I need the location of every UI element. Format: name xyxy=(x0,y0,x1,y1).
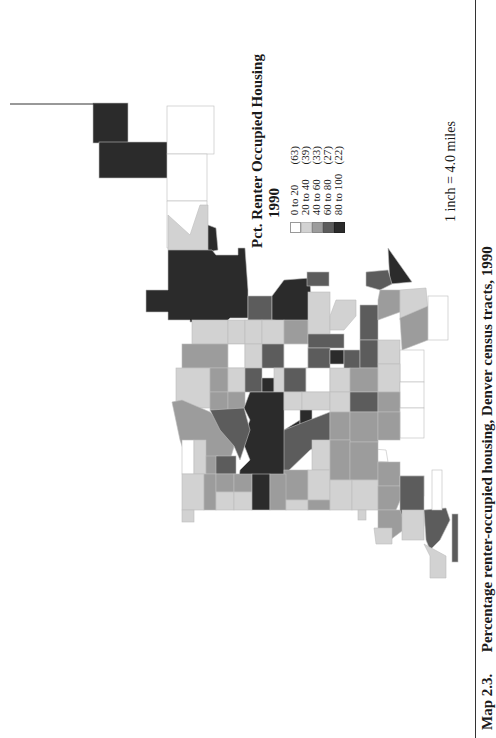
legend: Pct. Renter Occupied Housing xyxy=(250,54,265,248)
tract xyxy=(248,296,272,320)
tract xyxy=(284,392,302,410)
tract xyxy=(216,474,234,492)
tract xyxy=(194,440,206,474)
tract xyxy=(270,474,286,510)
tract xyxy=(93,103,128,143)
tract xyxy=(378,290,400,320)
tract xyxy=(208,225,218,252)
tract xyxy=(350,412,378,442)
tract xyxy=(234,492,252,510)
tract xyxy=(360,305,378,340)
tract xyxy=(245,344,262,368)
legend-swatch xyxy=(334,222,345,233)
tract xyxy=(192,320,228,344)
tract xyxy=(378,412,400,440)
tract xyxy=(234,474,252,492)
tract xyxy=(330,350,344,364)
tract xyxy=(358,510,366,520)
tract xyxy=(284,320,308,344)
legend-title: Pct. Renter Occupied Housing xyxy=(250,54,265,248)
tract xyxy=(228,320,245,344)
tract xyxy=(344,350,360,370)
tract xyxy=(307,272,329,286)
tract xyxy=(308,500,330,510)
tract xyxy=(210,368,228,392)
tract xyxy=(306,368,330,392)
tract xyxy=(284,344,308,368)
tract xyxy=(378,392,400,412)
tract xyxy=(167,106,214,154)
tract xyxy=(424,544,446,578)
map-scale: 1 inch = 4.0 miles xyxy=(443,121,459,222)
tract xyxy=(330,412,350,440)
tract xyxy=(312,440,330,470)
tract xyxy=(432,470,442,510)
caption-rule xyxy=(475,0,476,738)
tract xyxy=(284,368,306,392)
tract xyxy=(167,154,207,201)
tract xyxy=(262,344,284,368)
caption-label: Map 2.3. xyxy=(479,674,495,730)
tract xyxy=(452,514,458,562)
tract xyxy=(99,142,168,178)
tract xyxy=(400,382,424,408)
tract xyxy=(350,368,378,392)
tract xyxy=(378,486,402,510)
tract xyxy=(330,392,350,412)
tract xyxy=(352,480,378,510)
tract xyxy=(308,334,344,348)
tract xyxy=(245,368,262,392)
tract xyxy=(182,440,194,474)
map-caption: Map 2.3. Percentage renter-occupied hous… xyxy=(479,246,496,730)
legend-year: 1990 xyxy=(267,188,282,218)
caption-title: Percentage renter-occupied housing, Denv… xyxy=(479,246,495,652)
tract xyxy=(204,474,216,510)
tract xyxy=(210,392,228,410)
tract xyxy=(400,408,424,438)
tract xyxy=(302,392,330,410)
tract xyxy=(228,392,245,410)
tract xyxy=(262,378,274,392)
tract xyxy=(388,248,412,284)
tract xyxy=(378,364,400,392)
legend-year-wrap: 1990 xyxy=(267,188,282,218)
legend-range: 80 to 100 xyxy=(333,167,344,215)
tract xyxy=(378,462,400,486)
tract xyxy=(182,510,194,522)
tract xyxy=(330,300,356,330)
tract xyxy=(308,348,330,370)
tract xyxy=(330,440,350,480)
tract xyxy=(146,248,248,322)
tract xyxy=(330,480,352,510)
tract xyxy=(262,320,284,344)
tract xyxy=(216,456,236,474)
tract xyxy=(245,320,262,344)
tract xyxy=(350,442,378,480)
tract xyxy=(286,500,308,510)
legend-count: (22) xyxy=(332,146,344,164)
tract xyxy=(374,528,392,544)
tract xyxy=(350,392,378,412)
tract xyxy=(330,368,350,392)
tract xyxy=(400,350,424,382)
legend-item-4: 80 to 100 (22) xyxy=(333,146,345,233)
tract xyxy=(366,270,392,290)
tract xyxy=(182,344,228,368)
tract xyxy=(228,344,245,368)
denver-tract-map xyxy=(0,0,496,738)
tract xyxy=(308,470,330,500)
tract xyxy=(252,474,270,510)
tract xyxy=(216,492,234,510)
tract xyxy=(228,368,245,392)
tract xyxy=(402,510,424,540)
tract xyxy=(182,474,204,510)
tract xyxy=(378,340,400,364)
tract xyxy=(424,508,450,550)
tract xyxy=(360,340,378,368)
tract xyxy=(284,470,308,500)
tract xyxy=(274,368,284,392)
tract xyxy=(428,296,448,340)
tract xyxy=(308,292,330,334)
